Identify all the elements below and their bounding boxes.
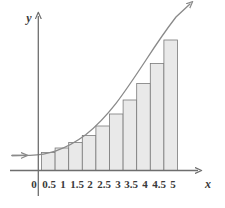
x-tick-label: 5 (170, 178, 176, 190)
x-tick-label: 2 (87, 178, 93, 190)
x-tick-labels: 0 0.5 1 1.5 2 2.5 3 3.5 4 4.5 5 (31, 178, 176, 190)
figure-canvas: y x 0 0.5 1 1.5 2 2.5 3 3.5 4 4.5 5 (0, 0, 225, 208)
bar-rect (150, 64, 164, 171)
bar-rect (42, 153, 56, 171)
y-axis-label: y (24, 11, 32, 25)
x-tick-label: 1 (60, 178, 66, 190)
bar-rect (55, 148, 69, 171)
x-tick-label: 3 (115, 178, 121, 190)
x-tick-label: 4.5 (152, 178, 166, 190)
x-axis-label: x (204, 177, 211, 191)
x-tick-label: 4 (142, 178, 148, 190)
riemann-sum-figure: y x 0 0.5 1 1.5 2 2.5 3 3.5 4 4.5 5 (0, 0, 225, 208)
bar-rect (96, 126, 110, 171)
bar-rect (164, 40, 178, 171)
x-tick-label: 1.5 (70, 178, 84, 190)
x-tick-label: 0.5 (42, 178, 56, 190)
bar-rect (123, 100, 137, 171)
x-tick-label: 2.5 (97, 178, 111, 190)
x-tick-label: 3.5 (124, 178, 138, 190)
bar-rect (137, 84, 151, 171)
bar-rect (82, 136, 96, 171)
riemann-rectangles (42, 40, 178, 171)
bar-rect (69, 143, 83, 171)
bar-rect (110, 114, 124, 171)
x-tick-label: 0 (31, 178, 37, 190)
